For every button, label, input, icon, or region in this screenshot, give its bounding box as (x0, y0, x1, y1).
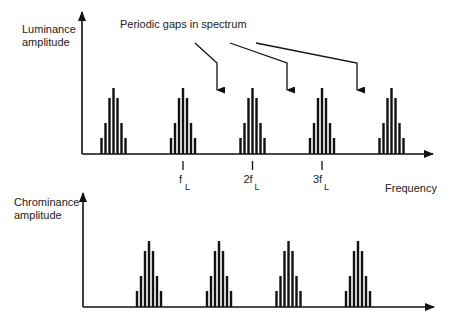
luminance-harmonic-cluster (378, 88, 404, 154)
spectral-line (218, 241, 220, 307)
spectral-line (144, 251, 146, 307)
harmonic-subscript: L (324, 182, 329, 192)
spectral-line (178, 98, 180, 154)
harmonic-subscript: L (255, 182, 260, 192)
spectral-line (398, 123, 400, 154)
chrominance-spectrum-bars (136, 241, 371, 307)
spectral-line (251, 88, 253, 154)
chrominance-plot: Chrominance amplitude (14, 193, 434, 307)
spectral-line (321, 88, 323, 154)
spectral-line (170, 138, 172, 154)
spectral-line (283, 251, 285, 307)
spectral-line (214, 251, 216, 307)
gap-arrows (195, 43, 357, 90)
harmonic-ticks: fL2fL3fL (179, 161, 329, 192)
spectral-line (329, 123, 331, 154)
harmonic-label: f (179, 173, 183, 185)
chrominance-harmonic-cluster (345, 241, 371, 307)
luminance-harmonic-cluster (170, 88, 196, 154)
spectral-line (120, 123, 122, 154)
luminance-y-label-1: Luminance (22, 23, 76, 35)
spectral-line (263, 138, 265, 154)
spectral-line (190, 123, 192, 154)
spectral-line (247, 98, 249, 154)
spectral-line (206, 291, 208, 307)
chrominance-y-label-2: amplitude (14, 209, 62, 221)
frequency-label: Frequency (385, 182, 437, 194)
spectral-line (104, 123, 106, 154)
harmonic-label: 3f (313, 173, 323, 185)
chrominance-harmonic-cluster (136, 241, 162, 307)
luminance-plot: Luminance amplitude Periodic gaps in spe… (22, 12, 437, 194)
harmonic-label: 2f (244, 173, 254, 185)
chrominance-y-label-1: Chrominance (14, 196, 79, 208)
spectral-line (160, 291, 162, 307)
spectral-line (309, 138, 311, 154)
spectral-line (259, 123, 261, 154)
spectral-line (275, 291, 277, 307)
spectral-line (402, 138, 404, 154)
spectral-line (317, 98, 319, 154)
gap-pointer-arrow (195, 43, 217, 90)
chrominance-harmonic-cluster (206, 241, 232, 307)
spectral-line (112, 88, 114, 154)
spectral-line (386, 98, 388, 154)
spectral-line (394, 98, 396, 154)
spectral-line (353, 251, 355, 307)
spectral-line (243, 123, 245, 154)
spectral-line (194, 138, 196, 154)
spectral-line (136, 291, 138, 307)
spectral-line (365, 276, 367, 307)
spectral-line (156, 276, 158, 307)
spectral-line (378, 138, 380, 154)
spectral-line (313, 123, 315, 154)
spectral-line (369, 291, 371, 307)
luminance-y-label-2: amplitude (22, 36, 70, 48)
spectral-line (299, 291, 301, 307)
spectral-line (325, 98, 327, 154)
spectral-line (124, 138, 126, 154)
spectral-line (152, 251, 154, 307)
spectral-line (287, 241, 289, 307)
spectral-line (349, 276, 351, 307)
luminance-spectrum-bars (100, 88, 404, 154)
spectral-line (148, 241, 150, 307)
spectral-line (108, 98, 110, 154)
spectral-line (361, 251, 363, 307)
spectrum-interleaving-diagram: Luminance amplitude Periodic gaps in spe… (0, 0, 451, 330)
spectral-line (295, 276, 297, 307)
spectral-line (357, 241, 359, 307)
spectral-line (226, 276, 228, 307)
chrominance-harmonic-cluster (275, 241, 301, 307)
spectral-line (382, 123, 384, 154)
luminance-harmonic-cluster (309, 88, 335, 154)
gaps-annotation: Periodic gaps in spectrum (120, 18, 247, 30)
gap-pointer-arrow (256, 43, 357, 90)
spectral-line (210, 276, 212, 307)
harmonic-subscript: L (185, 182, 190, 192)
spectral-line (182, 88, 184, 154)
spectral-line (140, 276, 142, 307)
spectral-line (239, 138, 241, 154)
spectral-line (279, 276, 281, 307)
spectral-line (222, 251, 224, 307)
spectral-line (255, 98, 257, 154)
spectral-line (116, 98, 118, 154)
spectral-line (333, 138, 335, 154)
spectral-line (230, 291, 232, 307)
spectral-line (390, 88, 392, 154)
spectral-line (100, 138, 102, 154)
luminance-harmonic-cluster (100, 88, 126, 154)
luminance-harmonic-cluster (239, 88, 265, 154)
spectral-line (174, 123, 176, 154)
spectral-line (345, 291, 347, 307)
spectral-line (186, 98, 188, 154)
spectral-line (291, 251, 293, 307)
gap-pointer-arrow (230, 43, 287, 90)
